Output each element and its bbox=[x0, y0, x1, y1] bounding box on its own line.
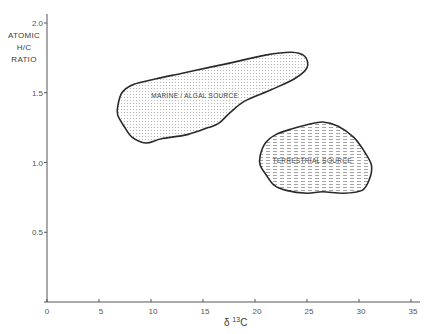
marine-algal-label: MARINE / ALGAL SOURCE bbox=[151, 92, 238, 99]
x-axis-label-suffix: C bbox=[240, 317, 247, 328]
x-tick-label: 0 bbox=[45, 307, 50, 316]
y-tick-label: 2.0 bbox=[32, 19, 44, 28]
x-tick-label: 20 bbox=[253, 307, 262, 316]
y-axis-label-line-2: H/C bbox=[4, 43, 44, 52]
chart: MARINE / ALGAL SOURCETERRESTRIAL SOURCE … bbox=[0, 0, 436, 334]
x-axis-label: δ 13C bbox=[224, 316, 247, 328]
x-axis-label-prefix: δ bbox=[224, 317, 230, 328]
x-tick-label: 5 bbox=[99, 307, 104, 316]
y-axis-label-line-3: RATIO bbox=[4, 55, 44, 64]
y-axis-label-line-1: ATOMIC bbox=[4, 31, 44, 40]
x-tick-label: 15 bbox=[201, 307, 210, 316]
terrestrial-label: TERRESTRIAL SOURCE bbox=[272, 157, 352, 164]
x-tick-label: 30 bbox=[357, 307, 366, 316]
regions-layer: MARINE / ALGAL SOURCETERRESTRIAL SOURCE bbox=[117, 52, 372, 193]
x-tick-label: 35 bbox=[409, 307, 418, 316]
y-tick-label: 0.5 bbox=[32, 228, 44, 237]
x-axis-label-superscript: 13 bbox=[232, 316, 240, 323]
y-tick-label: 1.0 bbox=[32, 159, 44, 168]
x-tick-label: 25 bbox=[305, 307, 314, 316]
y-tick-label: 1.5 bbox=[32, 89, 44, 98]
x-tick-label: 10 bbox=[149, 307, 158, 316]
